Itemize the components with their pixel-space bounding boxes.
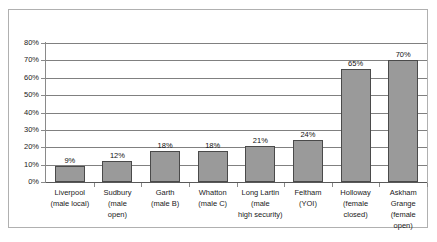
- y-axis-label: 10%: [9, 161, 39, 169]
- bar: [245, 146, 275, 182]
- category-label: Whatton (male C): [189, 187, 237, 209]
- y-axis-label: 50%: [9, 91, 39, 99]
- y-axis-label: 0%: [9, 178, 39, 186]
- bar-value-label: 65%: [336, 59, 376, 68]
- bar-value-label: 12%: [97, 151, 137, 160]
- gridline-80: [46, 43, 427, 44]
- bar-value-label: 18%: [193, 141, 233, 150]
- category-label: Sudbury (male open): [94, 187, 142, 220]
- bar: [341, 69, 371, 182]
- y-axis-label: 20%: [9, 143, 39, 151]
- bar: [102, 161, 132, 182]
- bar-value-label: 24%: [288, 130, 328, 139]
- category-label: Garth (male B): [141, 187, 189, 209]
- bar-value-label: 18%: [145, 141, 185, 150]
- bar: [150, 151, 180, 182]
- bar: [55, 166, 85, 182]
- y-axis-label: 60%: [9, 74, 39, 82]
- bar-value-label: 9%: [50, 156, 90, 165]
- category-label: Askham Grange (female open): [379, 187, 427, 231]
- bar-value-label: 21%: [240, 136, 280, 145]
- y-axis-label: 40%: [9, 109, 39, 117]
- x-axis-tick: [427, 183, 428, 187]
- bar: [293, 140, 323, 182]
- category-label: Liverpool (male local): [46, 187, 94, 209]
- y-axis-label: 30%: [9, 126, 39, 134]
- chart-frame: 0%10%20%30%40%50%60%70%80% 9%12%18%18%21…: [8, 9, 428, 228]
- category-label: Holloway (female closed): [332, 187, 380, 220]
- bar: [388, 60, 418, 182]
- category-label: Feltham (YOI): [284, 187, 332, 209]
- y-axis-label: 70%: [9, 56, 39, 64]
- y-axis-label: 80%: [9, 39, 39, 47]
- category-label: Long Lartin (male high security): [237, 187, 285, 220]
- bar-value-label: 70%: [383, 50, 423, 59]
- bar: [198, 151, 228, 182]
